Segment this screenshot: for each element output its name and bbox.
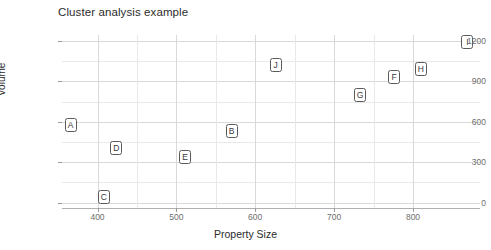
y-tick-mark [58, 41, 62, 42]
y-tick-mark [58, 203, 62, 204]
gridline-horizontal [62, 182, 480, 183]
gridline-vertical [98, 35, 99, 208]
x-axis-line [62, 208, 480, 209]
data-point-h[interactable]: H [415, 62, 427, 76]
x-tick-label: 600 [248, 212, 262, 222]
gridline-vertical [413, 35, 414, 208]
data-point-a[interactable]: A [65, 118, 77, 132]
x-tick-mark [255, 208, 256, 212]
scatter-chart: Cluster analysis example Volume Property… [0, 0, 491, 250]
gridline-horizontal [62, 41, 480, 42]
gridline-vertical [295, 35, 296, 208]
data-point-e[interactable]: E [179, 150, 191, 164]
y-tick-label: 1200 [439, 36, 491, 46]
x-tick-label: 400 [90, 212, 104, 222]
x-tick-label: 800 [406, 212, 420, 222]
y-tick-label: 0 [439, 198, 491, 208]
gridline-horizontal [62, 142, 480, 143]
gridline-vertical [176, 35, 177, 208]
plot-area: ABCDEFGHIJ [62, 35, 480, 208]
gridline-horizontal [62, 102, 480, 103]
gridline-vertical [137, 35, 138, 208]
data-point-d[interactable]: D [110, 141, 122, 155]
data-point-g[interactable]: G [354, 88, 366, 102]
x-tick-mark [334, 208, 335, 212]
data-point-f[interactable]: F [388, 70, 400, 84]
y-tick-label: 900 [439, 76, 491, 86]
gridline-horizontal [62, 122, 480, 123]
gridline-vertical [334, 35, 335, 208]
y-tick-mark [58, 122, 62, 123]
gridline-vertical [216, 35, 217, 208]
x-tick-mark [98, 208, 99, 212]
gridline-horizontal [62, 203, 480, 204]
y-tick-mark [58, 162, 62, 163]
y-tick-label: 600 [439, 117, 491, 127]
x-tick-mark [176, 208, 177, 212]
gridline-horizontal [62, 162, 480, 163]
data-point-b[interactable]: B [226, 124, 238, 138]
chart-title: Cluster analysis example [58, 6, 188, 18]
gridline-vertical [255, 35, 256, 208]
gridline-vertical [374, 35, 375, 208]
y-tick-mark [58, 81, 62, 82]
x-axis-label: Property Size [0, 228, 491, 240]
y-axis-label: Volume [0, 63, 7, 96]
x-tick-mark [413, 208, 414, 212]
y-tick-label: 300 [439, 157, 491, 167]
data-point-j[interactable]: J [270, 58, 282, 72]
x-tick-label: 700 [327, 212, 341, 222]
gridline-horizontal [62, 81, 480, 82]
data-point-c[interactable]: C [98, 190, 110, 204]
x-tick-label: 500 [169, 212, 183, 222]
